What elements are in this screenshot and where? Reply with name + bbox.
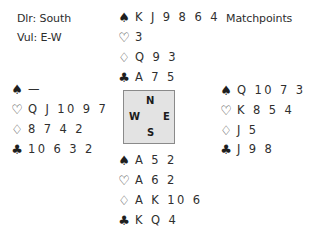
east-hearts-row: ♡ K 8 5 4 bbox=[219, 101, 294, 119]
east-hearts: K 8 5 4 bbox=[237, 103, 294, 117]
diamond-icon: ♢ bbox=[219, 124, 233, 137]
east-spades: Q 10 7 3 bbox=[237, 83, 306, 97]
spade-icon: ♠ bbox=[117, 11, 131, 24]
club-icon: ♣ bbox=[117, 214, 131, 227]
north-diamonds: Q 9 3 bbox=[135, 50, 178, 64]
south-clubs-row: ♣ K Q 4 bbox=[117, 211, 178, 228]
north-clubs: A 7 5 bbox=[135, 70, 177, 84]
spade-icon: ♠ bbox=[117, 154, 131, 167]
west-spades: — bbox=[28, 82, 42, 96]
north-hearts: 3 bbox=[135, 30, 145, 44]
west-diamonds-row: ♢ 8 7 4 2 bbox=[10, 120, 85, 138]
club-icon: ♣ bbox=[219, 143, 233, 156]
spade-icon: ♠ bbox=[219, 84, 233, 97]
west-diamonds: 8 7 4 2 bbox=[28, 122, 85, 136]
diamond-icon: ♢ bbox=[117, 194, 131, 207]
east-clubs: J 9 8 bbox=[237, 142, 274, 156]
scoring-label: Matchpoints bbox=[226, 12, 292, 25]
heart-icon: ♡ bbox=[117, 174, 131, 187]
south-spades: A 5 2 bbox=[135, 153, 177, 167]
heart-icon: ♡ bbox=[219, 104, 233, 117]
south-diamonds: A K 10 6 bbox=[135, 193, 203, 207]
east-diamonds-row: ♢ J 5 bbox=[219, 121, 259, 139]
south-hearts-row: ♡ A 6 2 bbox=[117, 171, 177, 189]
north-spades-row: ♠ K J 9 8 6 4 bbox=[117, 8, 220, 26]
compass-west: W bbox=[129, 111, 140, 122]
heart-icon: ♡ bbox=[117, 31, 131, 44]
dealer-label: Dlr: South bbox=[17, 12, 71, 25]
south-spades-row: ♠ A 5 2 bbox=[117, 151, 177, 169]
club-icon: ♣ bbox=[117, 71, 131, 84]
south-hearts: A 6 2 bbox=[135, 173, 177, 187]
compass-box: N W E S bbox=[123, 90, 175, 144]
west-clubs: 10 6 3 2 bbox=[28, 142, 95, 156]
west-spades-row: ♠ — bbox=[10, 80, 42, 98]
north-spades: K J 9 8 6 4 bbox=[135, 10, 220, 24]
compass-north: N bbox=[146, 95, 154, 106]
south-clubs: K Q 4 bbox=[135, 213, 178, 227]
diamond-icon: ♢ bbox=[10, 123, 24, 136]
west-clubs-row: ♣ 10 6 3 2 bbox=[10, 140, 95, 158]
north-clubs-row: ♣ A 7 5 bbox=[117, 68, 177, 86]
club-icon: ♣ bbox=[10, 143, 24, 156]
compass-south: S bbox=[147, 127, 154, 138]
spade-icon: ♠ bbox=[10, 83, 24, 96]
west-hearts-row: ♡ Q J 10 9 7 bbox=[10, 100, 108, 118]
diamond-icon: ♢ bbox=[117, 51, 131, 64]
vulnerability-label: Vul: E-W bbox=[17, 31, 62, 44]
east-spades-row: ♠ Q 10 7 3 bbox=[219, 81, 306, 99]
heart-icon: ♡ bbox=[10, 103, 24, 116]
west-hearts: Q J 10 9 7 bbox=[28, 102, 108, 116]
south-diamonds-row: ♢ A K 10 6 bbox=[117, 191, 203, 209]
north-hearts-row: ♡ 3 bbox=[117, 28, 145, 46]
north-diamonds-row: ♢ Q 9 3 bbox=[117, 48, 178, 66]
compass-east: E bbox=[163, 111, 170, 122]
east-diamonds: J 5 bbox=[237, 123, 259, 137]
east-clubs-row: ♣ J 9 8 bbox=[219, 140, 274, 158]
